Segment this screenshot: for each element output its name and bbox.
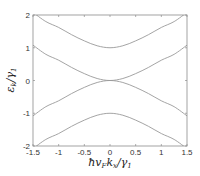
- x-tick-label: -1: [55, 148, 63, 157]
- band-curves: [33, 12, 187, 148]
- x-tick-label: 1.5: [181, 148, 193, 157]
- y-tick-label: 0: [26, 77, 31, 86]
- y-tick-label: -1: [23, 109, 31, 118]
- x-axis-label: ħvFkx/γ1: [88, 156, 132, 170]
- x-tick-label: 0.5: [130, 148, 142, 157]
- y-tick-label: -2: [23, 142, 31, 151]
- y-tick-labels: -2-1012: [23, 11, 31, 151]
- y-tick-label: 1: [26, 44, 31, 53]
- band-curve-0: [33, 12, 187, 47]
- band-curve-2: [33, 81, 187, 116]
- band-curve-3: [33, 113, 187, 148]
- x-tick-label: 1: [159, 148, 164, 157]
- y-tick-label: 2: [26, 11, 31, 20]
- band-curve-1: [33, 45, 187, 80]
- band-structure-chart: -1.5-1-0.500.511.5 -2-1012 ħvFkx/γ1 εk/γ…: [0, 0, 200, 176]
- y-axis-label: εk/γ1: [4, 68, 18, 93]
